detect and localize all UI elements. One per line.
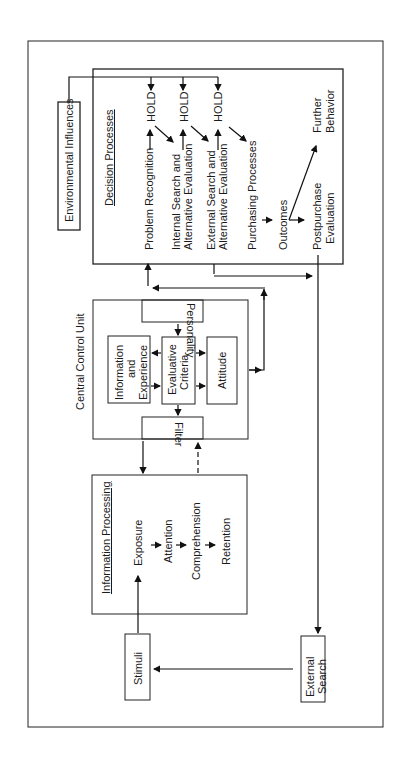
attitude-label: Attitude [216, 352, 228, 389]
ip-comprehension: Comprehension [190, 502, 202, 580]
decision-processes-title: Decision Processes [103, 109, 115, 206]
step-external-search-2: Alternative Evaluation [217, 144, 229, 250]
step-internal-search-2: Alternative Evaluation [182, 144, 194, 250]
diagram-lines [0, 0, 404, 769]
external-search-2: Search [316, 659, 328, 694]
info-exp-3: Experience [137, 345, 149, 400]
step-external-search-1: External Search and [205, 150, 217, 250]
hold-2: HOLD [178, 91, 190, 122]
step-purchasing-processes: Purchasing Processes [246, 141, 258, 250]
further-behavior-2: Behavior [324, 90, 336, 133]
ip-exposure: Exposure [132, 520, 144, 566]
external-search-1: External [304, 657, 316, 697]
evaluative-1: Evaluative [166, 344, 178, 395]
central-control-unit-title: Central Control Unit [74, 313, 86, 410]
step-problem-recognition: Problem Recognition [143, 148, 155, 250]
environmental-influences-label: Environmental Influences [63, 98, 75, 222]
step-postpurchase-1: Postpurchase [311, 183, 323, 250]
further-behavior-1: Further [311, 98, 323, 133]
step-internal-search-1: Internal Search and [170, 154, 182, 250]
ip-attention: Attention [162, 520, 174, 563]
stimuli-label: Stimuli [132, 652, 144, 685]
hold-3: HOLD [212, 91, 224, 122]
ip-retention: Retention [220, 518, 232, 565]
hold-1: HOLD [145, 91, 157, 122]
evaluative-2: Criteria [178, 355, 190, 390]
personality-label: Personality [185, 303, 197, 357]
step-postpurchase-2: Evaluation [324, 193, 336, 244]
info-exp-1: Information [113, 345, 125, 400]
filter-label: Filter [173, 422, 185, 446]
info-exp-2: and [125, 360, 137, 378]
information-processing-title: Information Processing [100, 482, 112, 595]
step-outcomes: Outcomes [277, 200, 289, 250]
